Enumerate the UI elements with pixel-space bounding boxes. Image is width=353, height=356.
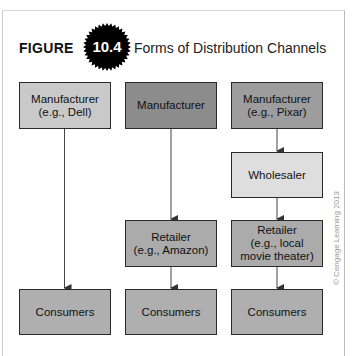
consumers-box-3: Consumers [231, 289, 323, 335]
manufacturer-dell-box: Manufacturer (e.g., Dell) [19, 82, 111, 129]
copyright-notice: © Cengage Learning 2013 [332, 191, 341, 285]
manufacturer-pixar-box: Manufacturer (e.g., Pixar) [231, 82, 323, 129]
retailer-amazon-box: Retailer (e.g., Amazon) [125, 220, 217, 267]
consumers-box-1: Consumers [19, 289, 111, 335]
consumers-box-2: Consumers [125, 289, 217, 335]
retailer-local-theater-box: Retailer (e.g., local movie theater) [231, 220, 323, 267]
wholesaler-box: Wholesaler [231, 152, 323, 198]
manufacturer-box: Manufacturer [125, 82, 217, 129]
